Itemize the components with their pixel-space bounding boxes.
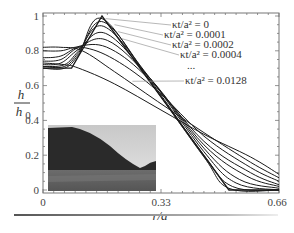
y-tick-0.2: 0.2 <box>25 149 39 161</box>
leader-line <box>115 25 163 35</box>
y-label-numerator: h <box>18 87 25 102</box>
x-tick-0.66: 0.66 <box>267 196 287 208</box>
y-label-subscript: 0 <box>25 109 31 121</box>
y-label-denominator: h <box>16 104 23 119</box>
y-tick-0.6: 0.6 <box>25 79 39 91</box>
hill-photo-inset <box>48 125 156 191</box>
y-tick-0.8: 0.8 <box>25 44 39 56</box>
x-tick-0.33: 0.33 <box>151 196 171 208</box>
profile-chart: 1 0.8 0.6 0.4 0.2 0 0 0.33 0.66 r/a h h … <box>0 0 294 233</box>
y-tick-0: 0 <box>34 184 40 196</box>
legend-label-0.0128: κt/a² = 0.0128 <box>185 74 247 86</box>
leader-line <box>106 19 171 25</box>
x-tick-0: 0 <box>40 196 46 208</box>
y-axis-label: h h 0 <box>14 87 31 121</box>
y-tick-1: 1 <box>34 10 40 22</box>
caption-divider <box>14 214 278 216</box>
legend-ellipsis: ... <box>187 59 196 71</box>
